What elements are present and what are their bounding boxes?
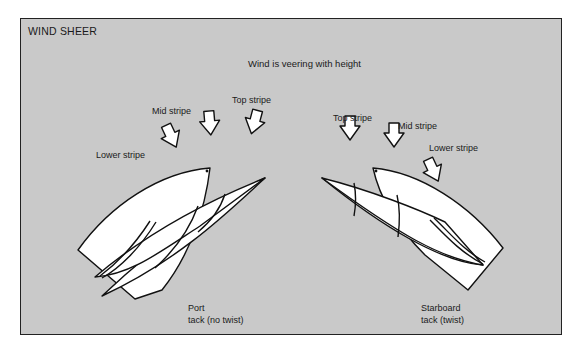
starboard-arrow-lower: [419, 155, 447, 185]
port-tack-boat: [78, 168, 265, 299]
starboard-masthead-dot: [375, 170, 378, 173]
wind-veering-caption: Wind is veering with height: [248, 58, 361, 70]
starboard-tack-boat: [322, 168, 503, 290]
port-tack-caption-line1: Port: [188, 302, 205, 314]
port-label-top-stripe: Top stripe: [232, 94, 271, 106]
port-arrow-top: [242, 108, 268, 136]
port-label-lower-stripe: Lower stripe: [96, 149, 145, 161]
starboard-label-mid-stripe: Mid stripe: [398, 120, 437, 132]
port-label-mid-stripe: Mid stripe: [152, 105, 191, 117]
wind-sheer-diagram: [0, 0, 581, 354]
port-arrow-mid: [199, 110, 221, 136]
port-masthead-dot: [206, 170, 209, 173]
starboard-tack-caption-line2: tack (twist): [421, 314, 464, 326]
port-tack-caption-line2: tack (no twist): [188, 314, 244, 326]
starboard-label-top-stripe: Top stripe: [333, 112, 372, 124]
starboard-label-lower-stripe: Lower stripe: [429, 142, 478, 154]
port-arrow-lower: [157, 121, 185, 151]
starboard-tack-caption-line1: Starboard: [421, 302, 461, 314]
